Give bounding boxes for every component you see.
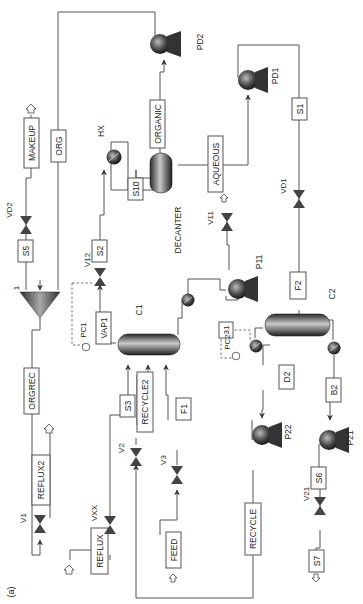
- c2-condenser[interactable]: [250, 340, 263, 353]
- controller-pc2-label: PC2: [223, 334, 232, 350]
- stream-s3-label: S3: [123, 401, 133, 412]
- stream-recycle[interactable]: RECYCLE: [245, 503, 261, 555]
- valve-v11-label: V11: [206, 211, 215, 225]
- stream-feed[interactable]: FEED: [166, 532, 181, 568]
- stream-makeup-label: MAKEUP: [27, 125, 37, 161]
- stream-recycle2[interactable]: RECYCLE2: [137, 372, 153, 432]
- controller-pc1-label: PC1: [79, 322, 88, 338]
- valve-vxx-label: VXX: [90, 504, 99, 521]
- stream-d2[interactable]: D2: [279, 365, 294, 389]
- stream-f2[interactable]: F2: [290, 272, 306, 299]
- stream-s5-label: S5: [21, 246, 31, 257]
- open-arrow-makeup-icon: [26, 104, 36, 113]
- stream-aqueous[interactable]: AQUEOUS: [208, 136, 223, 192]
- stream-s7-label: S7: [312, 556, 322, 567]
- pump-pd1-label: PD1: [270, 67, 280, 84]
- stream-reflux[interactable]: REFLUX: [91, 528, 108, 574]
- stream-b2-label: B2: [329, 385, 339, 396]
- column-c1-label: C1: [134, 304, 144, 315]
- stream-makeup[interactable]: MAKEUP: [24, 118, 39, 168]
- stream-f2-label: F2: [293, 280, 303, 290]
- stream-vap1[interactable]: VAP1: [96, 312, 111, 344]
- stream-vap1-label: VAP1: [99, 317, 109, 338]
- valve-v21[interactable]: V21: [302, 486, 326, 515]
- valve-v11[interactable]: V11: [206, 211, 233, 231]
- stream-s1[interactable]: S1: [292, 98, 307, 120]
- pump-p11-label: P11: [254, 254, 264, 269]
- process-flow-diagram: MAKEUP ORG ORGANIC AQUEOUS S1 S10 S5 S2 …: [0, 0, 363, 604]
- stream-d2-label: D2: [282, 371, 292, 382]
- pump-pd2-label: PD2: [195, 33, 205, 50]
- mixer-1[interactable]: 1: [12, 285, 60, 318]
- stream-orgrec[interactable]: ORGREC: [24, 368, 39, 414]
- mixer-1-label: 1: [12, 285, 21, 290]
- pump-pd2[interactable]: PD2: [150, 31, 205, 57]
- stream-s2-label: S2: [95, 246, 105, 257]
- stream-s6[interactable]: S6: [311, 467, 326, 489]
- open-arrow-aqueous-icon: [220, 194, 228, 202]
- column-c1[interactable]: C1: [118, 304, 180, 355]
- open-arrow-s7-icon: [312, 574, 320, 582]
- stream-feed-label: FEED: [169, 539, 179, 562]
- stream-f1[interactable]: F1: [176, 398, 191, 420]
- controller-pc1[interactable]: PC1: [79, 322, 90, 351]
- stream-31-label: 31: [222, 325, 231, 334]
- stream-s1-label: S1: [295, 104, 305, 115]
- stream-s5[interactable]: S5: [18, 240, 33, 262]
- stream-org[interactable]: ORG: [51, 130, 66, 162]
- stream-recycle2-label: RECYCLE2: [140, 379, 150, 424]
- stream-organic[interactable]: ORGANIC: [150, 100, 165, 148]
- panel-label: (a): [6, 586, 16, 597]
- stream-s2[interactable]: S2: [92, 240, 107, 262]
- decanter[interactable]: DECANTER: [150, 153, 183, 253]
- stream-s3[interactable]: S3: [120, 395, 135, 417]
- pump-p21[interactable]: P21: [319, 427, 355, 453]
- controller-pc2[interactable]: PC2: [223, 334, 240, 360]
- c2-reboiler[interactable]: [328, 342, 341, 355]
- valve-v3[interactable]: V3: [159, 455, 183, 484]
- open-arrow-reflux2-icon: [44, 424, 54, 433]
- open-arrow-feed-icon: [169, 574, 177, 582]
- stream-s10-label: S10: [131, 181, 141, 196]
- open-arrow-reflux-icon: [64, 565, 74, 574]
- stream-s10[interactable]: S10: [128, 178, 143, 200]
- stream-s6-label: S6: [314, 473, 324, 484]
- stream-organic-label: ORGANIC: [153, 104, 163, 144]
- stream-reflux-label: REFLUX: [95, 534, 105, 568]
- pump-p21-label: P21: [345, 430, 355, 445]
- stream-b2[interactable]: B2: [326, 378, 341, 402]
- pump-pd1[interactable]: PD1: [238, 67, 280, 93]
- heat-exchanger-hx-label: HX: [96, 125, 106, 137]
- valve-v2[interactable]: V2: [117, 443, 142, 466]
- valve-v21-label: V21: [302, 486, 311, 501]
- heat-exchanger-hx[interactable]: HX: [96, 125, 122, 165]
- stream-aqueous-label: AQUEOUS: [211, 142, 221, 185]
- stream-reflux2[interactable]: REFLUX2: [32, 455, 50, 505]
- pump-p22[interactable]: P22: [252, 422, 293, 448]
- stream-reflux2-label: REFLUX2: [36, 461, 46, 500]
- valve-v12-label: V12: [83, 252, 92, 267]
- pump-p11[interactable]: P11: [228, 254, 264, 302]
- column-c2-label: C2: [327, 288, 337, 299]
- stream-org-label: ORG: [54, 136, 64, 155]
- stream-f1-label: F1: [179, 404, 189, 414]
- c1-condenser[interactable]: [182, 294, 195, 307]
- stream-s7[interactable]: S7: [309, 550, 324, 572]
- valve-v3-label: V3: [159, 455, 168, 465]
- valve-vd2[interactable]: VD2: [5, 202, 32, 234]
- valve-vd1[interactable]: VD1: [279, 178, 305, 208]
- decanter-label: DECANTER: [173, 207, 183, 254]
- pump-p22-label: P22: [283, 424, 293, 439]
- valve-v1-label: V1: [19, 513, 28, 523]
- piping: [26, 12, 334, 598]
- valve-v2-label: V2: [117, 443, 126, 453]
- stream-recycle-label: RECYCLE: [248, 509, 258, 549]
- stream-orgrec-label: ORGREC: [27, 372, 37, 409]
- valve-vd2-label: VD2: [5, 202, 14, 218]
- valve-vd1-label: VD1: [279, 178, 288, 194]
